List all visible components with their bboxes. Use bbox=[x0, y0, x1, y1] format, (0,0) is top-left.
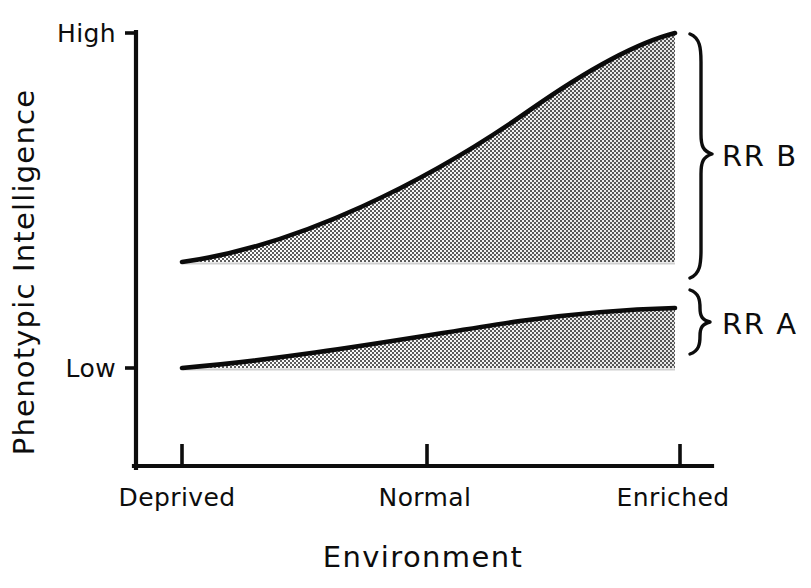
lower-reaction-range-region bbox=[182, 305, 676, 371]
lower-range-brace bbox=[690, 290, 710, 354]
x-axis-ticks bbox=[182, 444, 680, 466]
upper-range-brace bbox=[690, 34, 712, 278]
x-tick-label-normal: Normal bbox=[379, 483, 472, 512]
y-axis-high-label: High bbox=[57, 19, 116, 48]
lower-range-brace-group: RR A bbox=[690, 290, 798, 354]
lower-range-label: RR A bbox=[722, 307, 798, 341]
upper-range-label: RR B bbox=[722, 139, 798, 173]
x-axis-title: Environment bbox=[323, 540, 524, 574]
y-axis-title: Phenotypic Intelligence bbox=[7, 89, 41, 455]
upper-reaction-range-region bbox=[182, 30, 676, 266]
figure-root: High Low Phenotypic Intelligence Deprive… bbox=[0, 0, 811, 588]
y-axis-low-label: Low bbox=[66, 354, 116, 383]
x-tick-label-deprived: Deprived bbox=[119, 483, 236, 512]
x-tick-label-enriched: Enriched bbox=[617, 483, 730, 512]
reaction-range-chart: High Low Phenotypic Intelligence Deprive… bbox=[0, 0, 811, 588]
upper-range-brace-group: RR B bbox=[690, 34, 798, 278]
